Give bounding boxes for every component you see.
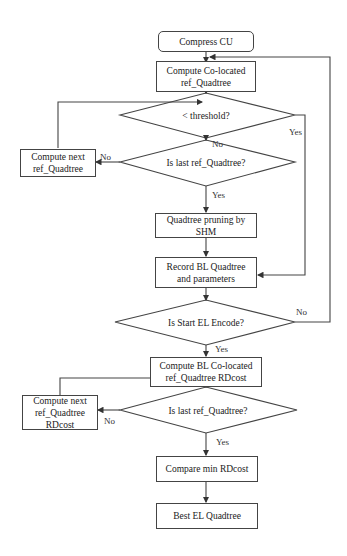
pruning-node: Quadtree pruning by SHM bbox=[155, 213, 257, 238]
last1-no-label: No bbox=[100, 152, 111, 162]
last2-no-label: No bbox=[104, 416, 115, 426]
last-ref-decision-1-text: Is last ref_Quadtree? bbox=[166, 158, 245, 168]
threshold-decision-text: < threshold? bbox=[182, 111, 229, 121]
best-node: Best EL Quadtree bbox=[156, 503, 258, 529]
threshold-yes-label: Yes bbox=[289, 127, 302, 137]
last-ref-decision-2-text: Is last ref_Quadtree? bbox=[168, 406, 247, 416]
start-node: Compress CU bbox=[158, 31, 254, 52]
compute-rdcost-node: Compute BL Co-located ref_Quadtree RDcos… bbox=[150, 357, 262, 387]
compute-colocated-node: Compute Co-located ref_Quadtree bbox=[156, 61, 256, 92]
last1-yes-label: Yes bbox=[212, 190, 225, 200]
compute-next-ref-node: Compute next ref_Quadtree bbox=[20, 149, 96, 177]
start-el-yes-label: Yes bbox=[215, 344, 228, 354]
last2-yes-label: Yes bbox=[216, 437, 229, 447]
record-node: Record BL Quadtree and parameters bbox=[155, 257, 257, 288]
compare-node: Compare min RDcost bbox=[156, 456, 258, 482]
start-el-no-label: No bbox=[296, 307, 307, 317]
threshold-no-label: No bbox=[212, 139, 223, 149]
start-el-decision-text: Is Start EL Encode? bbox=[168, 318, 244, 328]
compute-next-rdcost-node: Compute next ref_Quadtree RDcost bbox=[22, 395, 98, 430]
